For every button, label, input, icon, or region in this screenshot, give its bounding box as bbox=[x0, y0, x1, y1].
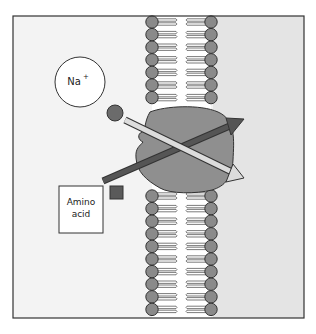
phospholipid-head bbox=[146, 228, 158, 240]
phospholipid-head bbox=[205, 278, 217, 290]
phospholipid-head bbox=[146, 91, 158, 103]
phospholipid-head bbox=[146, 278, 158, 290]
phospholipid-head bbox=[146, 291, 158, 303]
phospholipid-head bbox=[205, 41, 217, 53]
phospholipid-head bbox=[205, 215, 217, 227]
sodium-ion: Na + bbox=[55, 57, 105, 107]
phospholipid-head bbox=[146, 16, 158, 28]
phospholipid-head bbox=[146, 66, 158, 78]
amino-acid-particle bbox=[110, 186, 123, 199]
phospholipid-head bbox=[146, 265, 158, 277]
phospholipid-head bbox=[146, 202, 158, 214]
phospholipid-head bbox=[205, 66, 217, 78]
phospholipid-head bbox=[205, 79, 217, 91]
sodium-label: Na bbox=[67, 76, 81, 87]
phospholipid-head bbox=[205, 54, 217, 66]
phospholipid-head bbox=[146, 28, 158, 40]
amino-acid-label-line2: acid bbox=[72, 209, 91, 219]
phospholipid-head bbox=[146, 240, 158, 252]
phospholipid-head bbox=[205, 190, 217, 202]
phospholipid-head bbox=[205, 240, 217, 252]
sodium-particle bbox=[107, 105, 123, 121]
phospholipid-head bbox=[205, 265, 217, 277]
phospholipid-head bbox=[205, 303, 217, 315]
phospholipid-head bbox=[146, 215, 158, 227]
phospholipid-head bbox=[146, 79, 158, 91]
amino-acid-label-box: Amino acid bbox=[59, 186, 103, 233]
cotransport-diagram: Na + Amino acid bbox=[0, 0, 316, 334]
phospholipid-head bbox=[146, 303, 158, 315]
phospholipid-head bbox=[205, 228, 217, 240]
phospholipid-head bbox=[146, 54, 158, 66]
phospholipid-head bbox=[146, 41, 158, 53]
phospholipid-head bbox=[205, 16, 217, 28]
phospholipid-head bbox=[146, 190, 158, 202]
phospholipid-head bbox=[205, 202, 217, 214]
phospholipid-head bbox=[205, 253, 217, 265]
phospholipid-head bbox=[205, 28, 217, 40]
sodium-charge-label: + bbox=[83, 73, 89, 81]
phospholipid-head bbox=[205, 291, 217, 303]
phospholipid-head bbox=[205, 91, 217, 103]
amino-acid-label-line1: Amino bbox=[67, 197, 96, 207]
phospholipid-head bbox=[146, 253, 158, 265]
